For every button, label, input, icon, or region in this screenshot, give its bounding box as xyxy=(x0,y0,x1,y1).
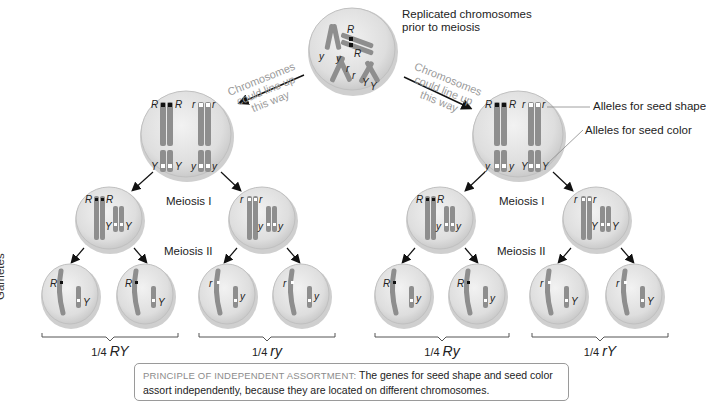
allele-label: R xyxy=(354,48,361,59)
svg-text:R: R xyxy=(151,99,158,110)
meiosis1-label-left: Meiosis I xyxy=(166,195,211,208)
meiosis1-label-right: Meiosis I xyxy=(499,195,544,208)
meiosis1-cell-Ry: RRyy xyxy=(406,187,476,254)
svg-text:R: R xyxy=(125,278,132,289)
meiosis1-cell-ry: rryy xyxy=(228,187,298,254)
seed-shape-label: Alleles for seed shape xyxy=(593,100,706,113)
svg-text:R: R xyxy=(416,194,423,205)
allele-label: y xyxy=(318,51,325,62)
svg-text:R: R xyxy=(437,194,444,205)
gamete-cell: r y xyxy=(198,264,258,329)
allele-label: y xyxy=(335,53,342,64)
replicated-label: Replicated chromosomes prior to meiosis xyxy=(402,8,532,34)
svg-text:y: y xyxy=(313,291,320,302)
svg-text:y: y xyxy=(435,221,442,232)
gamete-cell: r y xyxy=(272,264,332,329)
principle-box: PRINCIPLE OF INDEPENDENT ASSORTMENT: The… xyxy=(134,363,569,401)
svg-text:R: R xyxy=(383,278,390,289)
meiosis2-label-left: Meiosis II xyxy=(164,245,213,258)
gamete-cells: R Y R Y r y xyxy=(41,264,665,329)
meiosis2-label-right: Meiosis II xyxy=(497,245,546,258)
svg-text:R: R xyxy=(85,194,92,205)
svg-text:y: y xyxy=(211,161,218,172)
gamete-cell: r Y xyxy=(605,264,665,329)
gamete-cell: R Y xyxy=(116,264,176,329)
svg-text:R: R xyxy=(457,278,464,289)
svg-text:R: R xyxy=(485,99,492,110)
parent-cell: R R y y r r Y Y xyxy=(308,8,398,96)
svg-text:R: R xyxy=(50,278,57,289)
gamete-cell: R y xyxy=(448,264,508,329)
ratio-ry: 1/4 ry xyxy=(252,343,282,359)
svg-text:y: y xyxy=(489,293,496,304)
allele-label: R xyxy=(347,24,354,35)
svg-text:y: y xyxy=(190,161,197,172)
gamete-cell: r Y xyxy=(529,264,589,329)
principle-title: PRINCIPLE OF INDEPENDENT ASSORTMENT: xyxy=(143,370,356,381)
svg-text:R: R xyxy=(175,99,182,110)
svg-text:R: R xyxy=(106,194,113,205)
meiosis1-cell-rY: rrYY xyxy=(562,187,632,254)
svg-text:y: y xyxy=(277,221,284,232)
principle-line2: assort independently, because they are l… xyxy=(143,384,489,396)
gamete-cell: R Y xyxy=(41,264,101,329)
meiosis1-cell-RY: RRYY xyxy=(75,187,145,254)
svg-text:R: R xyxy=(509,99,516,110)
ratio-rY: 1/4 rY xyxy=(584,343,616,359)
seed-color-label: Alleles for seed color xyxy=(585,124,692,137)
svg-text:y: y xyxy=(239,291,246,302)
svg-text:y: y xyxy=(484,161,491,172)
gamete-cell: R y xyxy=(374,264,434,329)
metaphase-cell-left: RR rr YY yy xyxy=(140,91,234,182)
principle-line1: The genes for seed shape and seed color xyxy=(356,369,553,381)
svg-text:y: y xyxy=(455,221,462,232)
svg-text:y: y xyxy=(415,293,422,304)
gametes-label: Gametes xyxy=(0,253,6,300)
metaphase-cell-right: RR rr yy YY xyxy=(472,91,566,182)
ratio-Ry: 1/4 Ry xyxy=(424,343,459,359)
ratio-RY: 1/4 RY xyxy=(91,343,128,359)
svg-text:y: y xyxy=(508,161,515,172)
svg-text:y: y xyxy=(257,221,264,232)
gamete-brackets xyxy=(42,333,668,341)
